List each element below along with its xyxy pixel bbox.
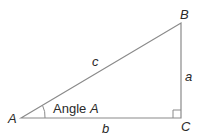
angle-arc (43, 106, 45, 118)
angle-label: Angle A (53, 102, 99, 115)
right-angle-marker (173, 110, 181, 118)
vertex-label-b: B (180, 8, 189, 21)
side-label-c: c (92, 55, 99, 68)
angle-label-var: A (90, 101, 99, 116)
angle-label-prefix: Angle (53, 101, 90, 116)
triangle-outline (21, 23, 181, 118)
triangle-graphic (0, 0, 203, 140)
vertex-label-a: A (8, 112, 17, 125)
side-label-a: a (185, 70, 192, 83)
vertex-label-c: C (181, 120, 190, 133)
right-triangle-diagram: A B C a b c Angle A (0, 0, 203, 140)
side-label-b: b (102, 122, 109, 135)
